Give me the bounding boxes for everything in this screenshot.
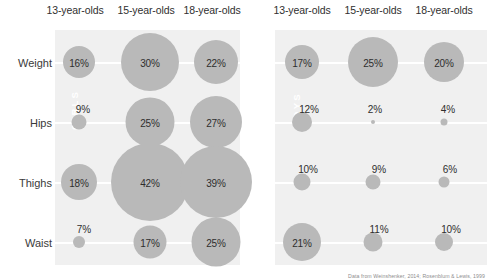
bubble-boys-thighs-15: [366, 175, 381, 190]
bubble-label-girls-waist-18: 25%: [206, 238, 226, 249]
bubble-label-girls-thighs-18: 39%: [206, 178, 226, 189]
bubble-label-boys-waist-13: 21%: [292, 238, 312, 249]
bubble-label-boys-weight-13: 17%: [292, 58, 312, 69]
bubble-label-boys-thighs-13: 10%: [298, 164, 318, 175]
bubble-chart: 13-year-olds 15-year-olds 18-year-olds 1…: [0, 0, 487, 279]
bubble-boys-hips-15: [371, 120, 375, 124]
bubble-label-boys-weight-18: 20%: [434, 58, 454, 69]
bubble-boys-hips-18: [441, 119, 448, 126]
column-header-boys-15: 15-year-olds: [337, 4, 409, 16]
row-label-waist: Waist: [0, 237, 52, 249]
bubble-label-girls-waist-15: 17%: [140, 238, 160, 249]
bubble-label-girls-weight-15: 30%: [140, 58, 160, 69]
bubble-label-girls-hips-13: 9%: [76, 104, 90, 115]
bubble-girls-waist-13: [73, 236, 85, 248]
panel-girls: GIRLS 16% 30% 22% 9% 25% 27% 18% 42% 39%…: [55, 30, 240, 265]
column-header-boys-13: 13-year-olds: [266, 4, 338, 16]
bubble-label-boys-weight-15: 25%: [363, 58, 383, 69]
bubble-label-boys-thighs-18: 6%: [443, 164, 457, 175]
row-label-weight: Weight: [0, 57, 52, 69]
bubble-label-boys-hips-15: 2%: [368, 104, 382, 115]
column-header-girls-13: 13-year-olds: [39, 4, 111, 16]
row-label-thighs: Thighs: [0, 177, 52, 189]
bubble-label-boys-waist-18: 10%: [441, 224, 461, 235]
bubble-girls-hips-13: [72, 115, 87, 130]
bubble-boys-hips-13: [292, 112, 312, 132]
bubble-label-girls-thighs-13: 18%: [69, 178, 89, 189]
bubble-label-boys-hips-13: 12%: [299, 104, 319, 115]
bubble-label-boys-hips-18: 4%: [441, 104, 455, 115]
column-header-girls-15: 15-year-olds: [110, 4, 182, 16]
bubble-label-girls-hips-15: 25%: [140, 118, 160, 129]
bubble-label-girls-weight-18: 22%: [206, 58, 226, 69]
bubble-label-boys-waist-15: 11%: [370, 224, 389, 235]
bubble-boys-waist-15: [364, 233, 383, 252]
bubble-boys-thighs-18: [439, 177, 450, 188]
panel-boys: BOYS 17% 25% 20% 12% 2% 4% 10% 9% 6% 21%…: [275, 30, 487, 265]
bubble-label-girls-thighs-15: 42%: [140, 178, 160, 189]
bubble-label-girls-waist-13: 7%: [77, 224, 91, 235]
bubble-label-girls-hips-18: 27%: [206, 118, 226, 129]
bubble-label-girls-weight-13: 16%: [69, 58, 89, 69]
source-note: Data from Weinshenker, 2014; Rosenblum &…: [348, 273, 485, 279]
column-header-boys-18: 18-year-olds: [408, 4, 480, 16]
column-header-girls-18: 18-year-olds: [176, 4, 248, 16]
bubble-boys-thighs-13: [294, 174, 311, 191]
bubble-label-boys-thighs-15: 9%: [372, 164, 386, 175]
bubble-boys-waist-18: [435, 233, 453, 251]
row-label-hips: Hips: [0, 117, 52, 129]
